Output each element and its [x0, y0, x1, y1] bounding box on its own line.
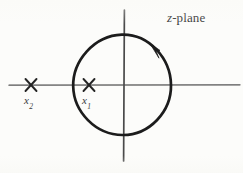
pole-label-x2: x2: [24, 95, 33, 109]
z-plane-figure: z-plane x2 x1: [0, 0, 243, 173]
pole-label-x1: x1: [82, 95, 91, 109]
pole-label-x2-subscript: 2: [29, 102, 33, 111]
ccw-direction-arrow: [150, 44, 160, 59]
plane-label: z-plane: [167, 11, 205, 24]
plane-label-suffix: -plane: [172, 10, 205, 25]
figure-canvas: [0, 0, 243, 173]
imaginary-axis: [124, 10, 125, 161]
pole-label-x1-subscript: 1: [87, 102, 91, 111]
